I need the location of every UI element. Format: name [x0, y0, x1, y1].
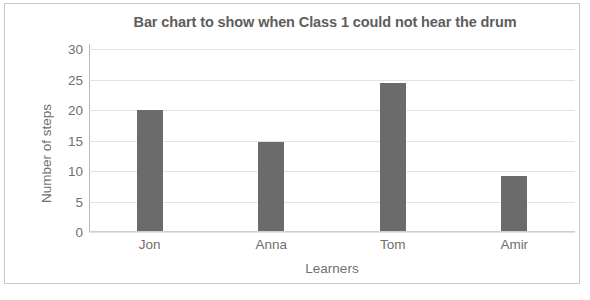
bar: [501, 176, 527, 232]
gridline: [89, 49, 575, 50]
x-tick-label: Jon: [95, 237, 205, 252]
bar: [258, 142, 284, 232]
y-tick-label: 15: [49, 133, 83, 148]
chart-title: Bar chart to show when Class 1 could not…: [75, 14, 575, 30]
x-tick-label: Tom: [338, 237, 448, 252]
x-axis-tick-labels: JonAnnaTomAmir: [89, 237, 575, 259]
x-axis-title: Learners: [89, 261, 575, 276]
y-tick-label: 5: [49, 194, 83, 209]
y-tick-label: 10: [49, 164, 83, 179]
y-tick-label: 25: [49, 72, 83, 87]
plot-area: [89, 49, 575, 232]
x-tick-label: Amir: [459, 237, 569, 252]
y-axis-tick-labels: 051015202530: [45, 49, 83, 232]
x-tick-label: Anna: [216, 237, 326, 252]
y-tick-label: 20: [49, 103, 83, 118]
bar: [380, 83, 406, 232]
y-tick-label: 0: [49, 225, 83, 240]
y-tick-label: 30: [49, 42, 83, 57]
chart-frame: Bar chart to show when Class 1 could not…: [4, 3, 580, 284]
gridline: [89, 232, 575, 233]
x-axis-line: [89, 231, 575, 232]
gridline: [89, 80, 575, 81]
bar: [137, 110, 163, 232]
